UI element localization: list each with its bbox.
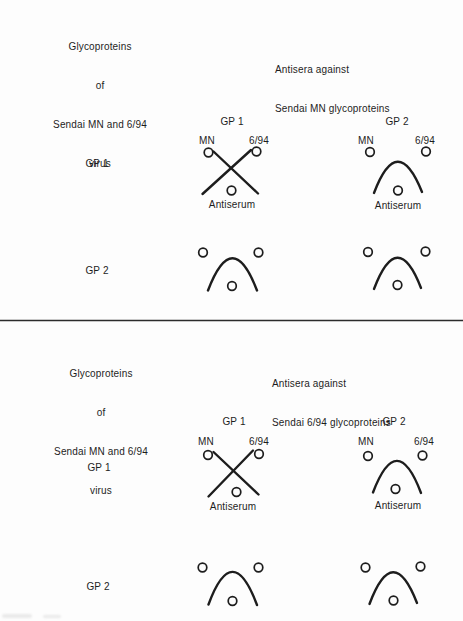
row-label-gp2-sec2: GP 2	[68, 580, 128, 593]
panel-sec1-row-gp2-col-gp1	[199, 248, 263, 290]
row-label-gp1-sec2: GP 1	[69, 461, 129, 474]
well-label-antiserum: Antiserum	[193, 500, 273, 513]
column-header-gp2-sec2: GP 2	[364, 415, 424, 428]
antisera-header-line: Sendai MN glycoproteins	[275, 102, 390, 115]
well-694	[416, 562, 425, 571]
cropped-caption-smudge	[43, 615, 61, 618]
antigen-header-line: Glycoproteins	[28, 40, 172, 53]
well-mn	[199, 248, 208, 257]
column-header-gp2-sec1: GP 2	[367, 115, 427, 128]
well-label-mn: MN	[346, 134, 386, 147]
antisera-header-line: Antisera against	[272, 377, 391, 390]
well-mn	[204, 148, 213, 157]
panel-sec1-row-gp1-col-gp1	[203, 147, 261, 195]
well-694	[418, 451, 427, 460]
cropped-caption-smudge	[2, 614, 32, 618]
well-694	[422, 147, 431, 156]
well-antiserum	[389, 596, 398, 605]
panel-sec2-row-gp2-col-gp1	[198, 563, 263, 605]
well-antiserum	[391, 485, 400, 494]
well-694	[421, 247, 430, 256]
antigen-header-line: Sendai MN and 6/94	[29, 445, 173, 458]
well-694	[252, 147, 261, 156]
well-antiserum	[228, 597, 237, 606]
well-label-antiserum: Antiserum	[358, 199, 438, 212]
panel-sec1-row-gp2-col-gp2	[364, 247, 430, 289]
well-label-694: 6/94	[239, 435, 279, 448]
panel-sec2-row-gp1-col-gp1	[204, 450, 264, 497]
row-label-gp2-sec1: GP 2	[67, 264, 127, 277]
panel-sec2-row-gp1-col-gp2	[364, 451, 427, 493]
antigen-header-line: Sendai MN and 6/94	[28, 118, 172, 131]
well-label-694: 6/94	[239, 134, 279, 147]
well-label-mn: MN	[187, 134, 227, 147]
antigen-header-line: of	[29, 406, 173, 419]
well-label-694: 6/94	[405, 134, 445, 147]
well-antiserum	[393, 281, 402, 290]
antigen-header-sec2: Glycoproteins of Sendai MN and 6/94 viru…	[29, 341, 173, 523]
well-label-694: 6/94	[404, 435, 444, 448]
well-label-mn: MN	[346, 435, 386, 448]
antigen-header-line: virus	[29, 484, 173, 497]
figure-page: Glycoproteins of Sendai MN and 6/94 viru…	[0, 0, 463, 621]
precipitin-line-right	[209, 451, 254, 497]
antisera-header-line: Antisera against	[275, 63, 390, 76]
well-antiserum	[394, 186, 403, 195]
well-694	[255, 450, 264, 459]
antigen-header-line: of	[28, 79, 172, 92]
column-header-gp1-sec2: GP 1	[204, 415, 264, 428]
panel-sec1-row-gp1-col-gp2	[366, 147, 431, 195]
well-mn	[198, 563, 207, 572]
well-mn	[366, 148, 375, 157]
well-694	[254, 248, 263, 257]
precipitin-line-left	[214, 152, 259, 194]
well-label-antiserum: Antiserum	[192, 198, 272, 211]
column-header-gp1-sec1: GP 1	[202, 115, 262, 128]
well-label-mn: MN	[186, 435, 226, 448]
well-694	[254, 563, 263, 572]
well-antiserum	[227, 186, 236, 195]
well-label-antiserum: Antiserum	[358, 499, 438, 512]
antigen-header-line: Glycoproteins	[29, 367, 173, 380]
well-mn	[364, 248, 373, 257]
well-antiserum	[232, 488, 241, 497]
well-antiserum	[228, 282, 237, 291]
row-label-gp1-sec1: GP 1	[67, 157, 127, 170]
panel-sec2-row-gp2-col-gp2	[361, 562, 425, 605]
well-mn	[204, 451, 213, 460]
well-mn	[361, 563, 370, 572]
